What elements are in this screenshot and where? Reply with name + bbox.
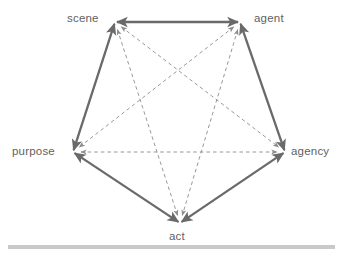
node-label-scene: scene: [67, 12, 99, 25]
edge-agency-act: [182, 153, 284, 222]
edge-agent-agency: [241, 24, 285, 150]
dashed-edge-group: [79, 27, 278, 216]
pentad-diagram: scene agent agency act purpose: [0, 0, 343, 255]
edge-agent-purpose: [79, 27, 233, 147]
pentad-graph-canvas: [0, 0, 343, 255]
node-label-agent: agent: [254, 12, 284, 25]
edge-act-purpose: [75, 153, 179, 222]
node-label-agency: agency: [291, 145, 329, 158]
node-label-purpose: purpose: [12, 145, 55, 158]
edge-agent-act: [182, 30, 237, 216]
node-label-act: act: [169, 230, 185, 243]
edge-scene-agency: [121, 27, 278, 147]
solid-edge-group: [74, 22, 285, 222]
edge-purpose-scene: [74, 24, 115, 150]
